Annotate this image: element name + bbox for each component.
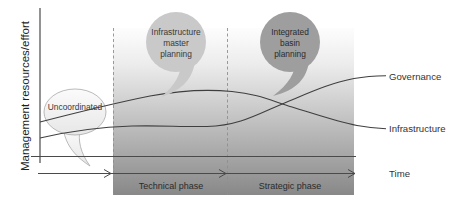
integrated-basin-label-line3: planning [274, 49, 306, 59]
infrastructure-master-label-line2: master [163, 38, 189, 48]
integrated-basin-label-line1: Integrated [271, 27, 309, 37]
diagram-canvas: Uncoordinated Technical phase Strategic … [0, 0, 459, 202]
phase-label-strategic: Strategic phase [259, 181, 322, 191]
uncoordinated-label: Uncoordinated [48, 102, 103, 112]
governance-label: Governance [389, 71, 441, 82]
y-axis-label: Management resources/effort [19, 20, 31, 171]
infrastructure-label: Infrastructure [389, 123, 446, 134]
phase-label-technical: Technical phase [139, 181, 204, 191]
phases-diagram: Uncoordinated Technical phase Strategic … [0, 0, 459, 202]
infrastructure-master-label-line3: planning [160, 49, 192, 59]
uncoordinated-bubble: Uncoordinated [44, 89, 106, 166]
integrated-basin-label-line2: basin [280, 38, 300, 48]
time-label: Time [389, 168, 410, 179]
infrastructure-master-label-line1: Infrastructure [151, 27, 201, 37]
